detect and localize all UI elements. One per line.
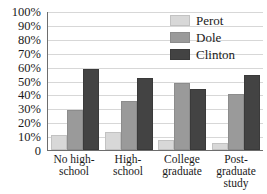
y-axis-tick-label: 80% — [18, 34, 41, 47]
bar-perot — [105, 132, 121, 150]
y-axis-tick-label: 40% — [18, 89, 41, 102]
bar-perot — [51, 135, 67, 150]
x-axis-tick-label: Collegegraduate — [155, 153, 209, 190]
y-axis-tick-label: 90% — [18, 20, 41, 33]
legend-item-perot: Perot — [170, 13, 235, 28]
bar-chart: 100%90%80%70%60%50%40%30%20%10%0 No high… — [0, 0, 267, 194]
y-axis-tick-label: 10% — [18, 131, 41, 144]
y-axis-tick-label: 30% — [18, 103, 41, 116]
x-axis-tick-label: No high-school — [47, 153, 101, 190]
legend-item-dole: Dole — [170, 30, 235, 45]
bar-dole — [67, 110, 83, 150]
legend-swatch-perot — [170, 15, 190, 26]
y-axis-tick-label: 60% — [18, 61, 41, 74]
legend-swatch-clinton — [170, 49, 190, 60]
bar-group — [48, 12, 102, 150]
legend: PerotDoleClinton — [170, 13, 235, 64]
x-axis-tick-label: High-school — [101, 153, 155, 190]
y-axis-tick-label: 70% — [18, 47, 41, 60]
x-axis-tick-label: Post-graduatestudy — [209, 153, 263, 190]
bar-dole — [228, 94, 244, 150]
bar-perot — [158, 140, 174, 150]
y-axis-tick-label: 50% — [18, 75, 41, 88]
y-axis-labels: 100%90%80%70%60%50%40%30%20%10%0 — [0, 12, 44, 151]
bar-dole — [174, 83, 190, 150]
bar-clinton — [244, 75, 260, 150]
legend-swatch-dole — [170, 32, 190, 43]
legend-item-clinton: Clinton — [170, 47, 235, 62]
legend-label: Perot — [196, 14, 223, 27]
bar-group — [102, 12, 156, 150]
bar-clinton — [137, 78, 153, 150]
y-axis-tick-label: 20% — [18, 117, 41, 130]
x-axis-labels: No high-schoolHigh-schoolCollegegraduate… — [47, 153, 263, 190]
bar-perot — [212, 143, 228, 150]
y-axis-tick-label: 0 — [35, 145, 41, 158]
y-axis-tick-label: 100% — [12, 6, 41, 19]
legend-label: Clinton — [196, 48, 235, 61]
bar-clinton — [83, 69, 99, 150]
legend-label: Dole — [196, 31, 221, 44]
bar-dole — [121, 101, 137, 150]
bar-clinton — [190, 89, 206, 150]
